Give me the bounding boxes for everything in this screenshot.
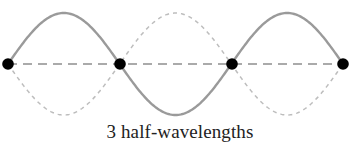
node-dot [337,58,349,70]
node-dot [114,58,126,70]
node-dot [226,58,238,70]
diagram-caption: 3 half-wavelengths [0,121,360,143]
node-dot [2,58,14,70]
